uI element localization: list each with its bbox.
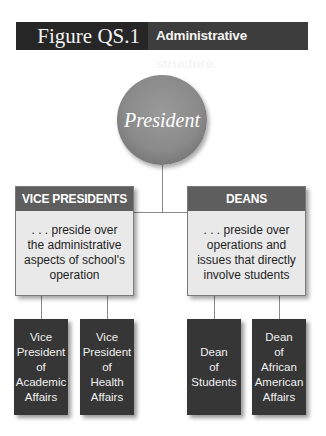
- group-deans: DEANS . . . preside over operations and …: [187, 186, 306, 296]
- connector-dean-2: [279, 295, 280, 319]
- role-dean-african-american-affairs: Dean of African American Affairs: [252, 319, 306, 415]
- group-title: DEANS: [188, 187, 305, 211]
- connector-vp-2: [107, 295, 108, 319]
- role-dean-of-students: Dean of Students: [187, 319, 241, 415]
- group-vice-presidents: VICE PRESIDENTS . . . preside over the a…: [15, 186, 134, 296]
- president-label: President: [124, 109, 200, 132]
- group-description: . . . preside over operations and issues…: [188, 211, 305, 295]
- figure-header: Figure QS.1 Administrative structure.: [16, 22, 308, 50]
- connector-president-down: [162, 165, 163, 213]
- role-vp-academic-affairs: Vice President of Academic Affairs: [14, 319, 68, 415]
- connector-vp-1: [41, 295, 42, 319]
- group-title: VICE PRESIDENTS: [16, 187, 133, 211]
- role-vp-health-affairs: Vice President of Health Affairs: [80, 319, 134, 415]
- group-description: . . . preside over the administrative as…: [16, 211, 133, 295]
- figure-number: Figure QS.1: [16, 22, 148, 50]
- connector-horizontal: [134, 212, 187, 213]
- connector-dean-1: [214, 295, 215, 319]
- figure-caption: Administrative structure.: [156, 22, 308, 50]
- president-node: President: [117, 75, 207, 165]
